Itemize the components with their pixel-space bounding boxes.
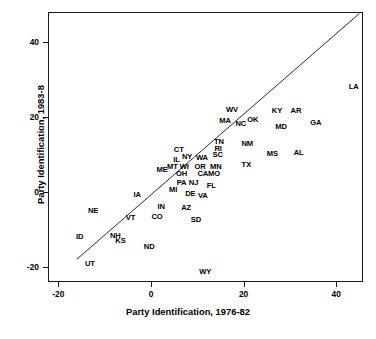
y-axis-tick — [43, 42, 48, 43]
scatter-plot-figure: LAKYARWVGAMANCOKMDTNNMRICTALMSSCNYWAILMT… — [0, 0, 376, 339]
y-axis-tick — [43, 267, 48, 268]
x-axis-tick-label: 40 — [332, 289, 341, 299]
x-axis-tick — [336, 282, 337, 287]
x-axis-title: Party Identification, 1976-82 — [0, 306, 376, 317]
x-axis-tick-label: 0 — [149, 289, 154, 299]
plot-area-frame — [48, 12, 363, 282]
x-axis-tick — [244, 282, 245, 287]
x-axis-tick-label: 20 — [239, 289, 248, 299]
x-axis-tick — [58, 282, 59, 287]
x-axis-tick — [151, 282, 152, 287]
y-axis-tick-label: -20 — [27, 262, 39, 272]
y-axis-title: Party Identification, 1983-8 — [35, 45, 46, 245]
x-axis-tick-label: -20 — [52, 289, 64, 299]
